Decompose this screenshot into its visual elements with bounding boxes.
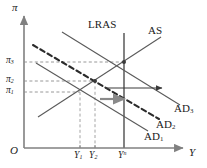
pi1-sub: 1 [11, 89, 14, 95]
as-curve [38, 37, 161, 117]
yn-sup: n [123, 150, 126, 156]
x-tick-label-yn: Yn [118, 151, 126, 161]
pi2-sub: 2 [11, 78, 14, 84]
equilibrium-point-e3 [122, 60, 126, 64]
ad1-base: AD [144, 130, 160, 142]
ad1-sub: 1 [160, 135, 164, 142]
ad2-sub: 2 [172, 123, 176, 130]
x-tick-label-y2: Y2 [89, 151, 97, 161]
y-axis-label: π [12, 2, 18, 13]
origin-label: O [10, 145, 18, 156]
y1-sub: 1 [79, 154, 82, 160]
x-tick-label-y1: Y1 [74, 151, 82, 161]
y-tick-label-pi1: π1 [6, 86, 14, 96]
lras-label: LRAS [88, 19, 117, 30]
x-axis-label: Y [189, 147, 195, 158]
pi3-sub: 3 [11, 59, 14, 65]
ad1-label: AD1 [144, 131, 164, 143]
equilibrium-point-e2 [93, 79, 97, 83]
ad3-label: AD3 [174, 103, 194, 115]
ad2-base: AD [156, 118, 172, 130]
y-tick-label-pi2: π2 [6, 75, 14, 85]
y2-sub: 2 [94, 154, 97, 160]
ad3-base: AD [174, 102, 190, 114]
ad-as-diagram: π Y O π3 π2 π1 Y1 Y2 Yn LRAS AS AD3 AD2 … [0, 0, 207, 168]
as-label: AS [148, 25, 162, 36]
ad3-sub: 3 [190, 107, 194, 114]
ad1-curve [36, 63, 148, 131]
guide-lines-group [24, 62, 124, 148]
y-tick-label-pi3: π3 [6, 56, 14, 66]
